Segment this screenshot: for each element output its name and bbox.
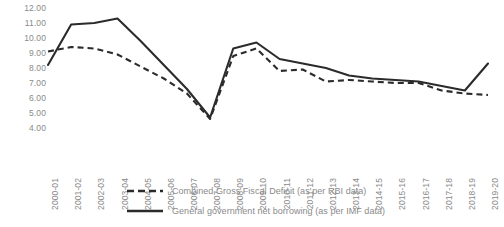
chart-legend: Combined Gross Fiscal Deficit (as per RB… (0, 182, 504, 227)
series-canvas (46, 8, 496, 128)
y-axis-tick-label: 7.00 (4, 79, 46, 88)
legend-item-combined-gross-fiscal-deficit: Combined Gross Fiscal Deficit (as per RB… (126, 184, 366, 198)
legend-label-general-government-net-borrowing: General government net borrowing (as per… (172, 207, 385, 216)
y-axis-tick-label: 10.00 (4, 34, 46, 43)
y-axis-tick-label: 8.00 (4, 64, 46, 73)
y-axis-tick-label: 4.00 (4, 124, 46, 133)
y-axis-tick-label: 9.00 (4, 49, 46, 58)
legend-item-general-government-net-borrowing: General government net borrowing (as per… (126, 204, 385, 218)
y-axis-tick-label: 12.00 (4, 4, 46, 13)
line-chart: 12.0011.0010.009.008.007.006.005.004.00 … (0, 0, 504, 227)
x-axis: 2000-012001-022002-032003-042004-052005-… (46, 128, 496, 184)
y-axis-tick-label: 5.00 (4, 109, 46, 118)
plot-area (46, 8, 496, 128)
y-axis-tick-label: 6.00 (4, 94, 46, 103)
y-axis-tick-label: 11.00 (4, 19, 46, 28)
legend-label-combined-gross-fiscal-deficit: Combined Gross Fiscal Deficit (as per RB… (172, 187, 366, 196)
series-line-general-government-net-borrowing (48, 19, 488, 118)
legend-dashed-swatch-icon (126, 185, 164, 197)
legend-solid-swatch-icon (126, 205, 164, 217)
